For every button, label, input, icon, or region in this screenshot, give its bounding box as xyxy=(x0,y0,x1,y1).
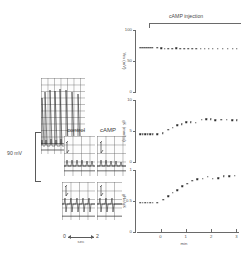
data-point xyxy=(164,48,166,50)
x-axis-tick xyxy=(161,229,162,232)
data-point xyxy=(187,183,189,185)
y-axis-tick-label: 10 xyxy=(127,98,132,102)
data-points-middle xyxy=(126,100,242,162)
injection-time-line-bottom xyxy=(161,168,162,234)
data-point xyxy=(175,48,177,50)
camp-injection-marker xyxy=(149,23,150,29)
data-point xyxy=(202,178,204,180)
data-point xyxy=(205,118,207,120)
data-point xyxy=(181,123,183,125)
data-point xyxy=(171,48,173,50)
data-point xyxy=(208,48,210,50)
data-point xyxy=(152,47,154,49)
y-axis-tick-label: 0.5 xyxy=(126,199,132,203)
data-point xyxy=(186,122,188,124)
data-point xyxy=(192,48,194,50)
data-points-top xyxy=(126,30,242,92)
data-point xyxy=(176,190,178,192)
data-point xyxy=(140,202,142,204)
scope-trace-camp-lower xyxy=(97,182,122,220)
y-axis-tick xyxy=(133,162,136,163)
data-point xyxy=(204,48,206,50)
trace-label-camp: cAMP xyxy=(100,127,116,133)
y-axis-tick-label: 100 xyxy=(125,28,132,32)
data-point xyxy=(234,175,236,177)
camp-injection-line xyxy=(149,23,241,24)
x-axis-tick-label: 3 xyxy=(235,235,237,239)
data-point xyxy=(200,48,202,50)
data-point xyxy=(147,202,149,204)
figure-root: 90 mV control cAMP xyxy=(0,0,242,256)
x-axis-tick xyxy=(236,229,237,232)
data-point xyxy=(167,129,169,131)
plot-panel-bottom: gNa/gK 00.51 xyxy=(126,170,242,232)
data-point xyxy=(147,133,149,135)
data-point xyxy=(190,122,192,124)
data-point xyxy=(150,133,152,135)
data-point xyxy=(192,180,194,182)
y-axis-tick xyxy=(133,30,136,31)
x-axis-tick xyxy=(211,229,212,232)
data-point xyxy=(167,195,169,197)
data-point xyxy=(140,133,142,135)
scope-waveform-control-upper xyxy=(64,136,95,176)
data-points-bottom xyxy=(126,170,242,232)
data-point xyxy=(145,133,147,135)
y-axis-tick xyxy=(133,131,136,132)
data-point xyxy=(184,48,186,50)
y-axis-tick-label: 1 xyxy=(130,168,132,172)
data-point xyxy=(222,48,224,50)
data-point xyxy=(207,176,209,178)
time-scalebar-end: 2 xyxy=(96,234,99,239)
data-point xyxy=(232,48,234,50)
data-point xyxy=(201,119,203,121)
data-point xyxy=(217,48,219,50)
data-point xyxy=(157,133,159,135)
time-scalebar-start: 0 xyxy=(63,234,66,239)
camp-injection-label: cAMP injection xyxy=(169,14,203,19)
data-point xyxy=(196,48,198,50)
data-point xyxy=(152,202,154,204)
data-point xyxy=(221,119,223,121)
scope-waveform-camp-lower xyxy=(97,182,122,220)
data-point xyxy=(214,120,216,122)
y-axis-tick xyxy=(133,61,136,62)
data-point xyxy=(236,48,238,50)
x-axis-tick-label: 2 xyxy=(210,235,212,239)
x-axis-line xyxy=(137,232,239,233)
scope-waveform-control-lower xyxy=(62,182,95,220)
time-scalebar-arrow: 0 2 xyxy=(64,235,98,239)
data-point xyxy=(157,202,159,204)
data-point xyxy=(157,47,159,49)
data-point xyxy=(217,177,219,179)
injection-time-line-top xyxy=(161,28,162,94)
data-point xyxy=(229,175,231,177)
time-scalebar-unit: sec xyxy=(64,240,98,244)
timeseries-panel: cAMP injection Vm (mV) 050100 gK (mmho) … xyxy=(126,14,242,256)
x-axis: min 0123 xyxy=(126,232,242,254)
plot-panel-top: Vm (mV) 050100 xyxy=(126,30,242,92)
y-axis-tick-label: 5 xyxy=(130,129,132,133)
data-point xyxy=(182,185,184,187)
data-point xyxy=(232,120,234,122)
data-point xyxy=(197,179,199,181)
data-point xyxy=(150,202,152,204)
data-point xyxy=(227,48,229,50)
data-point xyxy=(172,192,174,194)
trace-label-control: control xyxy=(67,127,85,133)
x-axis-label: min xyxy=(126,242,242,246)
data-point xyxy=(188,48,190,50)
data-point xyxy=(212,48,214,50)
data-point xyxy=(172,127,174,129)
y-axis-tick xyxy=(133,92,136,93)
data-point xyxy=(152,133,154,135)
y-axis-tick-label: 0 xyxy=(130,160,132,164)
data-point xyxy=(195,122,197,124)
voltage-scalebar-label: 90 mV xyxy=(7,151,22,156)
y-axis-tick xyxy=(133,201,136,202)
data-point xyxy=(212,178,214,180)
data-point xyxy=(223,175,225,177)
x-axis-tick xyxy=(186,229,187,232)
injection-time-line-middle xyxy=(161,98,162,164)
y-axis-tick xyxy=(133,100,136,101)
